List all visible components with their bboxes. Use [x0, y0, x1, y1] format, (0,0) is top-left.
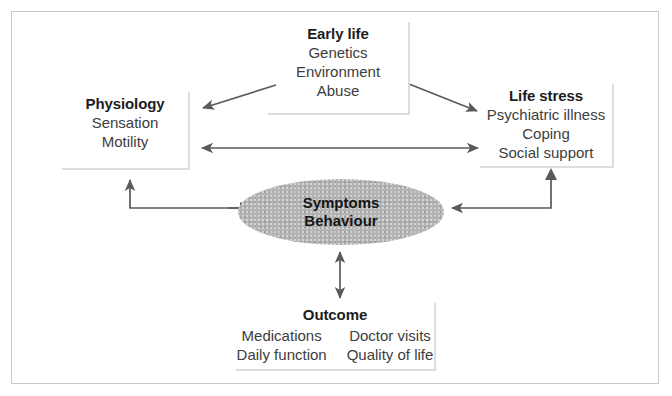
symptoms-text: Symptoms Behaviour — [238, 179, 444, 245]
node-early-life: Early life Genetics Environment Abuse — [268, 22, 410, 115]
node-outcome-left-item-1: Daily function — [237, 345, 327, 364]
node-physiology: Physiology Sensation Motility — [62, 92, 190, 170]
node-life-stress-item-1: Coping — [480, 124, 612, 143]
node-early-life-title: Early life — [268, 24, 408, 43]
node-early-life-item-0: Genetics — [268, 43, 408, 62]
node-life-stress-title: Life stress — [480, 86, 612, 105]
node-life-stress-item-0: Psychiatric illness — [480, 105, 612, 124]
node-life-stress: Life stress Psychiatric illness Coping S… — [480, 84, 614, 168]
node-symptoms-behaviour: Symptoms Behaviour — [238, 179, 444, 245]
node-physiology-item-1: Motility — [62, 132, 188, 151]
outcome-column-left: Medications Daily function — [237, 326, 327, 364]
node-outcome-title: Outcome — [236, 305, 434, 324]
node-life-stress-item-2: Social support — [480, 143, 612, 162]
node-symptoms-line-2: Behaviour — [304, 212, 377, 230]
node-early-life-item-1: Environment — [268, 62, 408, 81]
node-symptoms-line-1: Symptoms — [303, 194, 380, 212]
outcome-column-right: Doctor visits Quality of life — [347, 326, 434, 364]
node-outcome-right-item-0: Doctor visits — [347, 326, 434, 345]
node-physiology-item-0: Sensation — [62, 113, 188, 132]
node-outcome-right-item-1: Quality of life — [347, 345, 434, 364]
outcome-columns: Medications Daily function Doctor visits… — [236, 326, 434, 364]
node-outcome-left-item-0: Medications — [237, 326, 327, 345]
node-outcome: Outcome Medications Daily function Docto… — [236, 303, 436, 371]
node-physiology-title: Physiology — [62, 94, 188, 113]
node-early-life-item-2: Abuse — [268, 81, 408, 100]
diagram-canvas: Early life Genetics Environment Abuse Ph… — [0, 0, 672, 396]
